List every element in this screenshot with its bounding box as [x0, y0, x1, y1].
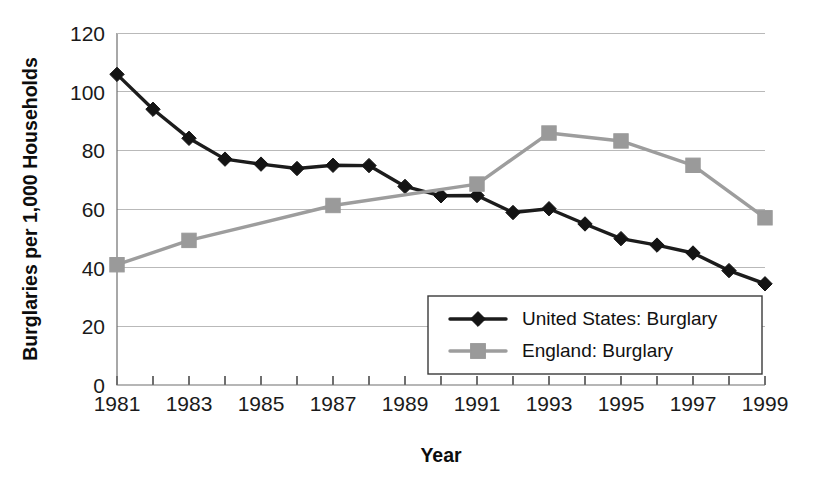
- data-point-1995-49.9: [614, 231, 628, 245]
- data-point-1983-49.3: [182, 233, 196, 247]
- x-tick-label-1995: 1995: [598, 392, 645, 415]
- data-point-1987-74.9: [326, 158, 340, 172]
- x-axis-title: Year: [420, 444, 462, 466]
- x-tick-label-1981: 1981: [94, 392, 141, 415]
- y-axis-tick-labels: 020406080100120: [70, 22, 105, 397]
- y-tick-label-60: 60: [82, 198, 105, 221]
- burglary-rate-line-chart: 020406080100120 198119831985198719891991…: [0, 0, 825, 482]
- x-tick-label-1983: 1983: [166, 392, 213, 415]
- x-tick-label-1999: 1999: [742, 392, 789, 415]
- y-tick-label-120: 120: [70, 22, 105, 45]
- legend-label-england-burglary: England: Burglary: [522, 340, 674, 361]
- data-point-1996-47.7: [650, 238, 664, 252]
- series-line: [117, 74, 765, 283]
- chart-legend: United States: BurglaryEngland: Burglary: [428, 296, 762, 374]
- data-point-1991-68.5: [470, 177, 484, 191]
- gridlines: [117, 33, 765, 326]
- y-tick-label-40: 40: [82, 257, 105, 280]
- data-point-1993-85.9: [542, 126, 556, 140]
- data-point-1995-83.2: [614, 134, 628, 148]
- x-tick-label-1985: 1985: [238, 392, 285, 415]
- y-tick-label-100: 100: [70, 81, 105, 104]
- data-point-1988-74.8: [362, 158, 376, 172]
- data-point-1997-74.9: [686, 158, 700, 172]
- data-point-1984-77: [218, 152, 232, 166]
- data-point-1987-61.2: [326, 198, 340, 212]
- data-point-1986-73.8: [290, 161, 304, 175]
- data-point-1989-67.7: [398, 179, 412, 193]
- data-point-1992-58.8: [506, 205, 520, 219]
- x-tick-label-1997: 1997: [670, 392, 717, 415]
- chart-container: 020406080100120 198119831985198719891991…: [0, 0, 825, 482]
- data-point-1997-45: [686, 246, 700, 260]
- y-tick-label-80: 80: [82, 139, 105, 162]
- data-point-1993-60.1: [542, 202, 556, 216]
- legend-label-united-states-burglary: United States: Burglary: [522, 308, 718, 329]
- data-point-1998-39: [722, 263, 736, 277]
- data-series: [110, 67, 772, 291]
- y-axis-title: Burglaries per 1,000 Households: [19, 57, 41, 361]
- x-tick-label-1993: 1993: [526, 392, 573, 415]
- data-point-1999-57: [758, 211, 772, 225]
- data-point-1994-54.9: [578, 217, 592, 231]
- y-tick-label-20: 20: [82, 315, 105, 338]
- x-axis-tick-labels: 1981198319851987198919911993199519971999: [94, 392, 789, 415]
- x-tick-label-1987: 1987: [310, 392, 357, 415]
- series-united-states-burglary: [110, 67, 772, 291]
- x-tick-label-1991: 1991: [454, 392, 501, 415]
- legend-swatch-marker-england-burglary: [471, 344, 486, 359]
- data-point-1999-34.5: [758, 277, 772, 291]
- x-axis-tick-marks: [117, 376, 765, 385]
- data-point-1981-41: [110, 258, 124, 272]
- x-tick-label-1989: 1989: [382, 392, 429, 415]
- data-point-1985-75.3: [254, 157, 268, 171]
